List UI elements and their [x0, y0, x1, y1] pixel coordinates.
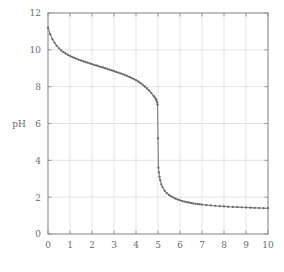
y-tick-label: 10 — [30, 45, 42, 55]
data-point-marker — [166, 192, 168, 194]
data-point-marker — [119, 72, 121, 74]
data-point-marker — [102, 66, 104, 68]
data-point-marker — [192, 202, 194, 204]
data-point-marker — [190, 202, 192, 204]
data-point-marker — [130, 77, 132, 79]
x-tick-label: 2 — [89, 240, 95, 250]
data-point-marker — [185, 201, 187, 203]
data-point-marker — [210, 204, 212, 206]
data-point-marker — [160, 183, 162, 185]
data-point-marker — [51, 38, 53, 40]
y-axis-tick-labels: 024681012 — [30, 8, 42, 239]
data-point-marker — [262, 207, 264, 209]
data-point-marker — [53, 42, 55, 44]
data-point-marker — [201, 203, 203, 205]
data-point-marker — [232, 206, 234, 208]
y-tick-label: 2 — [35, 193, 41, 203]
y-tick-label: 0 — [35, 229, 41, 239]
data-point-marker — [150, 92, 152, 94]
data-point-marker — [196, 203, 198, 205]
data-point-marker — [62, 51, 64, 53]
x-tick-label: 7 — [199, 240, 205, 250]
data-point-marker — [56, 45, 58, 47]
data-point-marker — [254, 207, 256, 209]
data-point-marker — [71, 56, 73, 58]
x-tick-label: 3 — [111, 240, 117, 250]
data-point-marker — [86, 62, 88, 64]
data-point-marker — [100, 66, 102, 68]
data-point-marker — [124, 74, 126, 76]
data-point-marker — [111, 69, 113, 71]
data-point-marker — [168, 194, 170, 196]
data-point-marker — [117, 72, 119, 74]
data-point-marker — [137, 80, 139, 82]
y-tick-label: 12 — [30, 8, 41, 18]
data-point-marker — [158, 176, 160, 178]
data-point-marker — [144, 85, 146, 87]
data-point-marker — [157, 137, 159, 139]
y-axis-title-text: pH — [12, 119, 26, 129]
data-point-marker — [108, 69, 110, 71]
data-point-marker — [214, 205, 216, 207]
data-point-marker — [199, 203, 201, 205]
data-point-marker — [146, 87, 148, 89]
data-point-marker — [158, 171, 160, 173]
data-point-marker — [135, 79, 137, 81]
data-point-marker — [177, 198, 179, 200]
data-point-marker — [69, 55, 71, 57]
data-point-marker — [240, 206, 242, 208]
x-axis-tick-labels: 012345678910 — [45, 240, 274, 250]
data-point-marker — [133, 78, 135, 80]
y-axis-title: pH — [12, 119, 26, 129]
data-point-marker — [205, 204, 207, 206]
data-point-marker — [95, 64, 97, 66]
data-point-marker — [67, 54, 69, 56]
data-point-marker — [75, 58, 77, 60]
data-point-marker — [236, 206, 238, 208]
x-tick-label: 10 — [262, 240, 274, 250]
data-point-marker — [172, 196, 174, 198]
data-point-marker — [183, 200, 185, 202]
data-point-marker — [161, 186, 163, 188]
data-point-marker — [49, 33, 51, 35]
data-point-marker — [60, 49, 62, 51]
data-point-marker — [148, 90, 150, 92]
data-point-marker — [84, 61, 86, 63]
data-point-marker — [159, 179, 161, 181]
data-point-marker — [258, 207, 260, 209]
chart-canvas: 012345678910 024681012 pH — [0, 0, 284, 272]
data-point-marker — [113, 70, 115, 72]
y-tick-label: 8 — [35, 82, 41, 92]
data-point-marker — [58, 47, 60, 49]
y-tick-label: 6 — [35, 119, 41, 129]
data-point-marker — [245, 206, 247, 208]
data-point-marker — [104, 67, 106, 69]
data-point-marker — [249, 207, 251, 209]
x-tick-label: 4 — [133, 240, 139, 250]
data-point-marker — [82, 60, 84, 62]
data-point-marker — [218, 205, 220, 207]
data-point-marker — [223, 205, 225, 207]
data-point-marker — [170, 195, 172, 197]
x-tick-label: 6 — [177, 240, 183, 250]
y-tick-label: 4 — [35, 156, 41, 166]
data-point-marker — [174, 197, 176, 199]
data-point-marker — [188, 201, 190, 203]
data-point-marker — [128, 76, 130, 78]
data-point-marker — [227, 206, 229, 208]
data-point-marker — [97, 65, 99, 67]
data-point-marker — [157, 167, 159, 169]
x-tick-label: 0 — [45, 240, 51, 250]
data-point-marker — [179, 199, 181, 201]
data-point-marker — [156, 104, 158, 106]
x-tick-label: 1 — [67, 240, 73, 250]
titration-chart: 012345678910 024681012 pH — [0, 0, 284, 272]
data-point-marker — [163, 190, 165, 192]
data-point-marker — [78, 59, 80, 61]
data-point-marker — [91, 63, 93, 65]
data-point-marker — [181, 200, 183, 202]
x-tick-label: 8 — [221, 240, 227, 250]
data-point-marker — [115, 71, 117, 73]
data-point-marker — [64, 52, 66, 54]
data-point-marker — [126, 75, 128, 77]
